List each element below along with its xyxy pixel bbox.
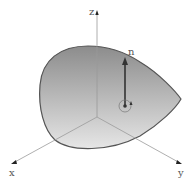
diagram-canvas: z x y n bbox=[0, 0, 194, 182]
y-axis-label: y bbox=[177, 167, 184, 178]
x-axis-label: x bbox=[9, 167, 15, 178]
base-point bbox=[123, 104, 127, 108]
surface-patch bbox=[40, 46, 181, 149]
y-axis-arrowhead bbox=[176, 160, 182, 164]
z-axis-arrowhead bbox=[95, 10, 98, 15]
normal-vector-label: n bbox=[128, 46, 135, 57]
z-axis-label: z bbox=[89, 6, 94, 17]
x-axis-arrowhead bbox=[11, 160, 17, 164]
